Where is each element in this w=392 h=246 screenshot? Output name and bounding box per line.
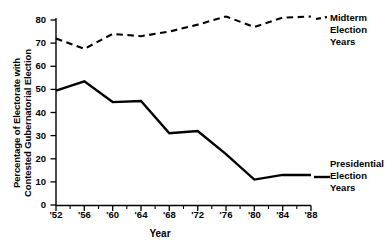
chart-figure: Percentage of Electorate with Contested … <box>0 0 392 246</box>
legend-midterm-line-1: Midterm <box>330 12 367 24</box>
x-tick-label-56: '56 <box>78 210 91 220</box>
legend-presidential-election-years: Presidential Election Years <box>330 158 384 194</box>
x-tick-label-84: '84 <box>276 210 289 220</box>
legend-swatch-midterm <box>316 17 327 19</box>
legend-midterm-election-years: Midterm Election Years <box>330 12 367 48</box>
x-tick-label-60: '60 <box>106 210 119 220</box>
legend-midterm-line-3: Years <box>330 36 367 48</box>
legend-presidential-line-2: Election <box>330 170 384 182</box>
legend-midterm-line-2: Election <box>330 24 367 36</box>
x-tick-label-72: '72 <box>191 210 204 220</box>
x-tick-label-52: '52 <box>50 210 63 220</box>
series-line-midterm <box>56 17 311 49</box>
legend-presidential-line-1: Presidential <box>330 158 384 170</box>
x-tick-label-68: '68 <box>163 210 176 220</box>
y-axis-ticks <box>51 20 57 205</box>
x-tick-label-64: '64 <box>135 210 148 220</box>
series-line-presidential <box>56 81 311 179</box>
x-axis-tick-labels: '52 '56 '60 '64 '68 '72 '76 '80 '84 '88 <box>0 210 392 224</box>
x-tick-label-88: '88 <box>305 210 318 220</box>
x-axis-label: Year <box>0 228 320 239</box>
x-tick-label-80: '80 <box>248 210 261 220</box>
legend-presidential-line-3: Years <box>330 182 384 194</box>
x-tick-label-76: '76 <box>220 210 233 220</box>
